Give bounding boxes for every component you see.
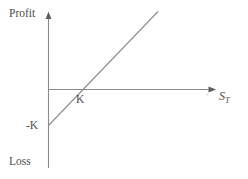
y-intercept-label: -K — [26, 120, 38, 132]
x-axis-minor-tick-dot — [207, 94, 209, 96]
strike-price-label: K — [76, 94, 84, 106]
profit-diagram: Profit Loss -K K ST — [0, 0, 248, 179]
x-axis-arrowhead-icon — [209, 87, 217, 93]
x-axis-label: ST — [219, 90, 230, 105]
y-axis-arrowhead-icon — [46, 12, 52, 20]
payoff-chart-canvas — [0, 0, 248, 179]
x-axis-label-subscript: T — [225, 95, 230, 105]
y-axis-top-label: Profit — [9, 8, 35, 20]
long-call-payoff-line — [49, 12, 159, 126]
y-axis-bottom-label: Loss — [9, 156, 31, 168]
